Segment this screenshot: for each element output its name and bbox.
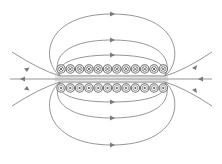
top-coil-row (57, 65, 168, 73)
axial-field-lines (10, 52, 212, 106)
arrow-left-icon (24, 68, 30, 73)
coil-dot-icon (85, 84, 93, 92)
arrow-left-icon (192, 65, 197, 70)
coil-dot-icon (94, 84, 102, 92)
coil-dot-icon (75, 84, 83, 92)
coil-dot-icon (113, 84, 121, 92)
coil-dot-icon (57, 84, 65, 92)
coil-cross-icon (141, 65, 149, 73)
coil-cross-icon (131, 65, 139, 73)
arrow-left-icon (24, 86, 30, 91)
coil-cross-icon (122, 65, 130, 73)
coil-dot-icon (159, 84, 167, 92)
arrow-left-icon (198, 77, 203, 82)
coil-dot-icon (122, 84, 130, 92)
coil-cross-icon (159, 65, 167, 73)
bottom-inner-loop (59, 82, 165, 102)
coil-cross-icon (66, 65, 74, 73)
coil-cross-icon (75, 65, 83, 73)
coil-cross-icon (113, 65, 121, 73)
arrow-right-icon (110, 100, 115, 105)
arrow-left-icon (192, 88, 197, 93)
coil-dot-icon (141, 84, 149, 92)
arrow-right-icon (110, 12, 115, 17)
arrow-right-icon (110, 53, 115, 58)
outer-arrows (110, 12, 115, 148)
coil-dot-icon (66, 84, 74, 92)
arrow-right-icon (110, 38, 115, 43)
coil-cross-icon (103, 65, 111, 73)
coil-dot-icon (103, 84, 111, 92)
arrow-right-icon (110, 116, 115, 121)
coil-cross-icon (150, 65, 158, 73)
top-inner-loop (59, 55, 165, 76)
solenoid-field-diagram (0, 0, 222, 164)
arrow-right-icon (110, 143, 115, 148)
coil-dot-icon (131, 84, 139, 92)
coil-cross-icon (57, 65, 65, 73)
coil-cross-icon (94, 65, 102, 73)
coil-dot-icon (150, 84, 158, 92)
coil-cross-icon (85, 65, 93, 73)
bottom-coil-row (57, 84, 168, 92)
arrow-left-icon (20, 77, 25, 82)
